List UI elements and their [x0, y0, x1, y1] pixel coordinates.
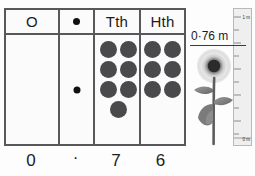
digit-ones: 0	[4, 148, 58, 174]
counter-hundredths	[164, 61, 181, 78]
place-value-header-row: O Tth Hth	[6, 10, 184, 35]
counter-hundredths	[164, 81, 181, 98]
counter-group-tenths	[95, 41, 141, 118]
column-header-hundredths: Hth	[141, 10, 184, 33]
counter-hundredths	[144, 61, 161, 78]
counter-group-hundredths	[141, 41, 184, 98]
column-cell-ones	[6, 35, 60, 144]
sunflower-stem	[214, 78, 215, 144]
counter-tenths	[120, 61, 137, 78]
ruler-top-label: 1 m	[242, 15, 250, 20]
decimal-point-icon	[73, 18, 80, 25]
column-header-ones-label: O	[26, 13, 38, 30]
counter-hundredths	[164, 41, 181, 58]
decimal-point-dot-icon	[73, 86, 80, 93]
column-cell-hundredths	[141, 35, 184, 144]
column-header-tenths: Tth	[95, 10, 141, 33]
column-cell-tenths	[95, 35, 141, 144]
column-header-decimal-point	[60, 10, 95, 33]
counter-hundredths	[144, 81, 161, 98]
place-value-chart: O Tth Hth	[4, 8, 186, 146]
place-value-digits-row: 0 · 7 6	[4, 148, 186, 174]
digit-tenths: 7	[93, 148, 139, 174]
column-header-tenths-label: Tth	[106, 13, 128, 30]
column-header-ones: O	[6, 10, 60, 33]
vertical-ruler: 1 m 0 m	[233, 8, 252, 146]
digit-hundredths: 6	[139, 148, 182, 174]
counter-tenths	[120, 81, 137, 98]
counter-tenths	[100, 81, 117, 98]
diagram-canvas: O Tth Hth 0 ·	[0, 0, 255, 176]
sunflower-center	[208, 60, 220, 72]
sunflower-leaf-upper-left	[194, 86, 213, 94]
counter-tenths	[120, 41, 137, 58]
counter-tenths	[110, 101, 127, 118]
sunflower-illustration	[190, 44, 238, 146]
measurement-label: 0·76 m	[191, 29, 228, 43]
ruler-ticks	[234, 9, 251, 145]
column-header-hundredths-label: Hth	[151, 13, 175, 30]
digit-decimal-point: ·	[58, 148, 93, 174]
counter-hundredths	[144, 41, 161, 58]
column-cell-decimal-point	[60, 35, 95, 144]
ruler-bottom-label: 0 m	[242, 137, 250, 142]
place-value-body-row	[6, 35, 184, 144]
sunflower-leaf-right	[214, 97, 233, 105]
counter-tenths	[100, 61, 117, 78]
measurement-leader-line	[190, 45, 246, 46]
counter-tenths	[100, 41, 117, 58]
